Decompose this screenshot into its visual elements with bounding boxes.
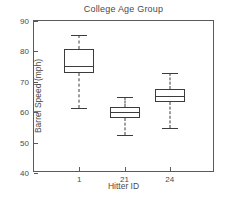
- whisker-lower: [79, 73, 80, 108]
- whisker-cap-upper: [162, 73, 178, 74]
- median-line: [155, 96, 185, 97]
- y-axis-label: Barrel Speed (mph): [33, 36, 43, 156]
- plot-area: Barrel Speed (mph) 405060708090 12124: [33, 20, 214, 172]
- whisker-cap-lower: [162, 128, 178, 129]
- x-tick-mark: [79, 167, 80, 171]
- y-tick-mark: [34, 173, 38, 174]
- whisker-lower: [124, 118, 125, 135]
- y-tick-mark: [34, 143, 38, 144]
- y-tick-mark: [34, 21, 38, 22]
- box-iqr: [64, 49, 94, 73]
- whisker-cap-upper: [117, 97, 133, 98]
- y-tick-mark: [34, 51, 38, 52]
- y-tick-label: 40: [7, 169, 29, 178]
- y-tick-label: 60: [7, 108, 29, 117]
- x-axis-label: Hitter ID: [33, 181, 214, 191]
- whisker-upper: [79, 35, 80, 49]
- whisker-upper: [169, 73, 170, 89]
- x-tick-mark: [125, 167, 126, 171]
- whisker-cap-lower: [117, 135, 133, 136]
- whisker-cap-lower: [71, 108, 87, 109]
- y-tick-label: 50: [7, 138, 29, 147]
- chart-title: College Age Group: [33, 4, 214, 14]
- y-tick-mark: [34, 112, 38, 113]
- median-line: [110, 112, 140, 113]
- x-tick-mark: [170, 167, 171, 171]
- median-line: [64, 66, 94, 67]
- whisker-upper: [124, 97, 125, 107]
- y-tick-mark: [34, 82, 38, 83]
- whisker-lower: [169, 102, 170, 128]
- whisker-cap-upper: [71, 35, 87, 36]
- boxplot-figure: College Age Group Barrel Speed (mph) 405…: [0, 0, 228, 197]
- y-tick-label: 70: [7, 77, 29, 86]
- y-tick-label: 90: [7, 17, 29, 26]
- y-tick-label: 80: [7, 47, 29, 56]
